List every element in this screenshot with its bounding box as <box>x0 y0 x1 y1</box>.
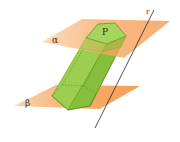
label-p: P <box>102 27 108 37</box>
label-r: r <box>146 8 150 16</box>
geometry-diagram: α β P r <box>0 0 180 142</box>
label-beta: β <box>25 98 30 108</box>
label-alpha: α <box>52 35 58 45</box>
